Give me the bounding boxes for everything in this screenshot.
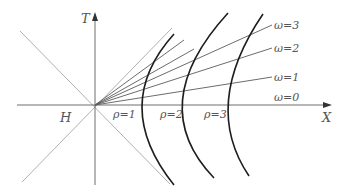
hyperbola-rho-2 bbox=[182, 13, 228, 178]
ray-intermediate-a bbox=[95, 40, 184, 105]
omega-1-label: ω=1 bbox=[274, 71, 299, 84]
region-h-label: H bbox=[59, 110, 72, 125]
omega-2-label: ω=2 bbox=[274, 42, 299, 55]
rho-1-label: ρ=1 bbox=[112, 108, 136, 121]
rindler-diagram: T X H ρ=1 ρ=2 ρ=3 ω=3 ω=2 ω=1 ω=0 bbox=[0, 0, 348, 195]
x-axis-arrow-icon bbox=[323, 102, 332, 108]
hyperbola-rho-3 bbox=[228, 14, 263, 176]
ray-intermediate-b bbox=[95, 49, 194, 105]
omega-3-label: ω=3 bbox=[274, 19, 299, 32]
omega-0-label: ω=0 bbox=[274, 91, 299, 104]
rho-2-label: ρ=2 bbox=[159, 108, 183, 121]
x-axis-label: X bbox=[321, 110, 332, 125]
t-axis-label: T bbox=[81, 11, 91, 26]
t-axis-arrow-icon bbox=[92, 12, 98, 21]
rho-3-label: ρ=3 bbox=[203, 108, 227, 121]
